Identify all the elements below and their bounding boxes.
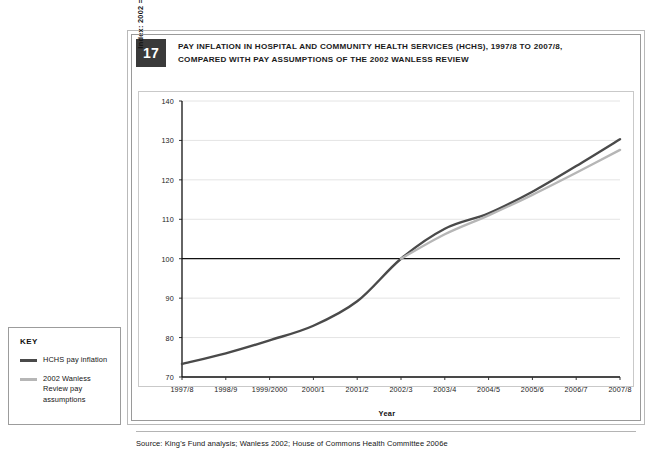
legend-swatch-icon xyxy=(20,378,37,381)
axis-ticks xyxy=(179,101,620,380)
legend-swatch-icon xyxy=(20,359,37,362)
chart-legend: KEY HCHS pay inflation2002 Wanless Revie… xyxy=(8,327,121,425)
legend-item: HCHS pay inflation xyxy=(20,355,111,366)
legend-entries: HCHS pay inflation2002 Wanless Review pa… xyxy=(20,355,111,405)
y-tick-label: 70 xyxy=(148,373,174,382)
y-tick-label: 100 xyxy=(148,255,174,264)
figure-card: 17 PAY INFLATION IN HOSPITAL AND COMMUNI… xyxy=(127,30,645,425)
legend-heading: KEY xyxy=(20,337,111,346)
y-tick-label: 140 xyxy=(148,97,174,106)
series-layer xyxy=(182,139,620,364)
line-chart xyxy=(138,91,634,387)
x-axis-title: Year xyxy=(128,409,646,418)
y-tick-label: 130 xyxy=(148,136,174,145)
series-line xyxy=(182,139,620,364)
y-tick-label: 90 xyxy=(148,294,174,303)
chart-plot-area xyxy=(138,91,634,387)
legend-item-label: 2002 Wanless Review pay assumptions xyxy=(43,374,111,406)
y-axis-title: Index: 2002 = 100 xyxy=(136,0,145,91)
legend-item-label: HCHS pay inflation xyxy=(43,355,107,366)
x-tick-label: 2007/8 xyxy=(590,385,650,394)
figure-header: 17 PAY INFLATION IN HOSPITAL AND COMMUNI… xyxy=(136,39,636,67)
y-tick-label: 80 xyxy=(148,334,174,343)
gridlines xyxy=(182,101,620,377)
y-tick-label: 110 xyxy=(148,215,174,224)
series-line xyxy=(401,150,620,259)
y-tick-label: 120 xyxy=(148,176,174,185)
legend-item: 2002 Wanless Review pay assumptions xyxy=(20,374,111,406)
source-note: Source: King's Fund analysis; Wanless 20… xyxy=(136,431,636,448)
page-title: PAY INFLATION IN HOSPITAL AND COMMUNITY … xyxy=(178,39,598,66)
